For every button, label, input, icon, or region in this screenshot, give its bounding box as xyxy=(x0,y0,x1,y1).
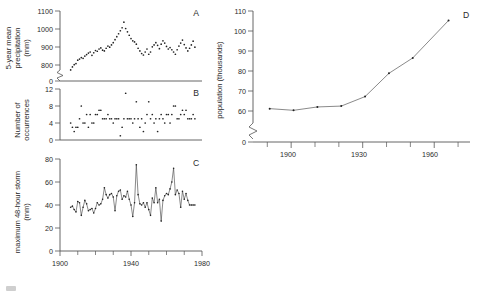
panel-a-point xyxy=(167,48,169,50)
panel-b-point xyxy=(180,114,182,116)
panel-a-point xyxy=(187,50,189,52)
panel-a-point xyxy=(139,50,141,52)
panel-b-point xyxy=(157,131,159,133)
panel-a-ylabel-line3: (mm) xyxy=(22,39,31,57)
panel-b-point xyxy=(104,118,106,120)
panel-a-point xyxy=(98,48,100,50)
panel-a-point xyxy=(192,40,194,42)
panel-c-point xyxy=(98,204,100,206)
panel-b-ylabel-line2: occurrences xyxy=(22,99,31,141)
panel-b-point xyxy=(150,118,152,120)
panel-c-point xyxy=(118,190,120,192)
panel-c-point xyxy=(178,193,180,195)
panel-c-ytick-20: 20 xyxy=(45,224,53,233)
panel-c-xtick-1940: 1940 xyxy=(123,259,139,268)
panel-a-point xyxy=(70,69,72,71)
panel-b-point xyxy=(70,122,72,124)
panel-d-xticks xyxy=(267,142,458,148)
panel-a-point xyxy=(166,46,168,48)
panel-c-point xyxy=(194,204,196,206)
panel-b-point xyxy=(178,118,180,120)
panel-c-point xyxy=(164,195,166,197)
panel-b-point xyxy=(96,114,98,116)
panel-a-point xyxy=(125,28,127,30)
panel-a-point xyxy=(118,33,120,35)
panel-c-point xyxy=(162,200,164,202)
panel-a-point xyxy=(146,48,148,50)
panel-c-point xyxy=(81,215,83,217)
panel-d-point xyxy=(364,96,366,98)
panel-b-point xyxy=(116,118,118,120)
panel-c-point xyxy=(153,202,155,204)
panel-b-point xyxy=(134,118,136,120)
panel-b-point xyxy=(144,122,146,124)
panel-a-point xyxy=(80,57,82,59)
panel-c-point xyxy=(159,198,161,200)
panel-a-point xyxy=(164,42,166,44)
panel-c-xtick-1980: 1980 xyxy=(194,259,210,268)
panel-c-point xyxy=(100,203,102,205)
panel-b-point xyxy=(146,114,148,116)
panel-b-point xyxy=(107,114,109,116)
panel-b-point xyxy=(128,118,130,120)
panel-c-point xyxy=(134,202,136,204)
panel-a-axis-break xyxy=(57,70,63,81)
panel-c-point xyxy=(109,194,111,196)
panel-a-ylabel-line1: 5-year mean xyxy=(4,27,13,70)
panel-b-point xyxy=(151,114,153,116)
panel-a-point xyxy=(127,31,129,33)
panel-b-point xyxy=(125,92,127,94)
panel-c-letter: C xyxy=(193,158,199,168)
panel-b-point xyxy=(118,118,120,120)
panel-c-point xyxy=(125,196,127,198)
multi-panel-figure: 5-year mean precipitation (mm) 1100 1000… xyxy=(0,0,477,294)
panel-a-point xyxy=(132,40,134,42)
panel-a-point xyxy=(137,47,139,49)
panel-d-ytick-0: 0 xyxy=(242,138,246,147)
panel-d-ytick-100: 100 xyxy=(234,27,246,36)
panel-c-point xyxy=(185,193,187,195)
panel-b-point xyxy=(79,118,81,120)
panel-c-ytick-60: 60 xyxy=(45,178,53,187)
panel-b-point xyxy=(182,109,184,111)
panel-a-point xyxy=(160,43,162,45)
panel-b-point xyxy=(112,122,114,124)
figure-container: 5-year mean precipitation (mm) 1100 1000… xyxy=(0,0,477,294)
panel-b-point xyxy=(153,122,155,124)
panel-c-point xyxy=(86,203,88,205)
panel-c-point xyxy=(70,207,72,209)
panel-d-markers xyxy=(269,20,450,112)
panel-a-point xyxy=(112,42,114,44)
panel-a-point xyxy=(176,49,178,51)
panel-b: Number of occurrences 12 8 4 0 B xyxy=(13,85,202,145)
panel-a-point xyxy=(95,50,97,52)
panel-c-point xyxy=(176,189,178,191)
panel-b-point xyxy=(143,131,145,133)
panel-a-point xyxy=(130,38,132,40)
panel-a-point xyxy=(84,55,86,57)
panel-a-point xyxy=(143,54,145,56)
panel-b-point xyxy=(189,118,191,120)
panel-c-point xyxy=(183,198,185,200)
panel-a-point xyxy=(134,41,136,43)
panel-a-point xyxy=(173,51,175,53)
panel-c-point xyxy=(144,207,146,209)
panel-c-ytick-40: 40 xyxy=(45,201,53,210)
panel-b-point xyxy=(121,126,123,128)
panel-c-ytick-80: 80 xyxy=(45,155,53,164)
panel-a-point xyxy=(109,46,111,48)
panel-a-point xyxy=(89,51,91,53)
panel-a-point xyxy=(141,53,143,55)
panel-c-point xyxy=(102,198,104,200)
panel-b-point xyxy=(102,118,104,120)
panel-a: 5-year mean precipitation (mm) 1100 1000… xyxy=(4,7,202,86)
panel-b-point xyxy=(166,114,168,116)
panel-a-point xyxy=(128,34,130,36)
panel-b-point xyxy=(98,109,100,111)
panel-c-ylabel-line2: (mm) xyxy=(22,203,31,221)
panel-c-point xyxy=(121,198,123,200)
panel-b-point xyxy=(123,118,125,120)
panel-b-point xyxy=(141,118,143,120)
panel-c-point xyxy=(88,210,90,212)
panel-b-ylabel-line1: Number of xyxy=(13,101,22,137)
